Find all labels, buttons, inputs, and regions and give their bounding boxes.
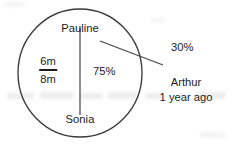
label-top-pauline: Pauline [61, 22, 99, 35]
callout-leader-line [100, 41, 163, 65]
annotation-time: 1 year ago [160, 90, 213, 105]
label-percent-30: 30% [171, 41, 194, 54]
label-bottom-sonia: Sonia [66, 113, 95, 126]
fraction-bar [39, 69, 57, 70]
annotation-name: Arthur [160, 75, 213, 90]
diagram-page: Pauline Sonia 75% 6m 8m 30% Arthur 1 yea… [0, 0, 233, 150]
fraction-6m-over-8m: 6m 8m [39, 55, 57, 86]
fraction-numerator: 6m [39, 55, 57, 69]
annotation-arthur: Arthur 1 year ago [160, 75, 213, 105]
label-percent-75: 75% [93, 65, 116, 78]
fraction-denominator: 8m [39, 72, 57, 86]
